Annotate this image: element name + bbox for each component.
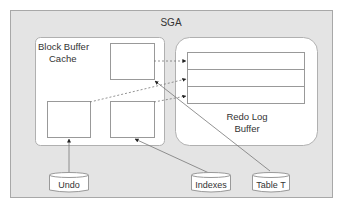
buffer-block-left xyxy=(48,102,91,138)
block-buffer-cache-label-line2: Cache xyxy=(49,53,76,64)
table-t-label: Table T xyxy=(256,180,286,190)
block-buffer-cache-label-line1: Block Buffer xyxy=(38,41,89,52)
buffer-block-middle xyxy=(111,102,155,138)
undo-label: Undo xyxy=(58,180,80,190)
redo-entry-1 xyxy=(188,53,305,70)
undo-datastore: Undo xyxy=(50,173,89,193)
table-t-datastore: Table T xyxy=(253,173,290,193)
sga-diagram: SGA Block Buffer Cache Redo Log Buffer U… xyxy=(0,0,340,211)
redo-log-buffer-label-line1: Redo Log xyxy=(226,111,267,122)
indexes-label: Indexes xyxy=(195,180,227,190)
redo-log-buffer-label-line2: Buffer xyxy=(234,123,259,134)
redo-entry-3 xyxy=(188,87,305,104)
sga-label: SGA xyxy=(160,17,181,28)
indexes-datastore: Indexes xyxy=(192,173,231,193)
buffer-block-top xyxy=(111,44,155,80)
redo-entry-2 xyxy=(188,70,305,87)
